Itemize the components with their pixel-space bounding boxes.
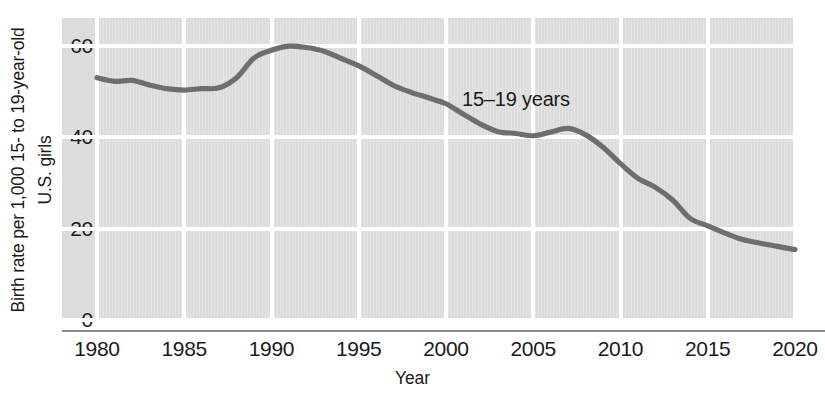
x-tick-label-1985: 1985 [161,337,207,361]
x-tick-label-2005: 2005 [510,337,556,361]
y-axis-title-line-1: Birth rate per 1,000 15- to 19-year-old [4,27,31,312]
series-annotation-label: 15–19 years [462,88,570,111]
x-tick-label-2000: 2000 [423,337,469,361]
x-axis-tick-labels: 198019851990199520002005201020152020 [0,337,825,367]
series-line-15-19-years [97,46,795,250]
x-tick-label-2015: 2015 [685,337,731,361]
x-tick-label-1995: 1995 [336,337,382,361]
x-axis-title: Year [0,368,825,389]
y-axis-title-line-2: U.S. girls [31,27,58,312]
y-axis-title-text: Birth rate per 1,000 15- to 19-year-old … [4,27,58,312]
x-tick-label-1990: 1990 [249,337,295,361]
x-tick-label-1980: 1980 [74,337,120,361]
x-axis-line [62,330,825,332]
chart-figure: Birth rate per 1,000 15- to 19-year-old … [0,0,825,409]
x-tick-label-2020: 2020 [772,337,818,361]
plot-area [97,18,795,320]
series-svg [97,18,795,320]
x-tick-label-2010: 2010 [598,337,644,361]
y-axis-tick-labels: 0204060 [56,18,97,320]
y-axis-title: Birth rate per 1,000 15- to 19-year-old … [0,0,62,340]
